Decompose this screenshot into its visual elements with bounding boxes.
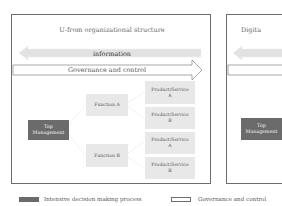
- legend-label-decision: Intensive decision making process: [44, 196, 142, 202]
- product-service-a-box: Product/Service A: [145, 81, 195, 104]
- legend-swatch-outline: [171, 197, 191, 202]
- governance-bar: [228, 65, 282, 75]
- governance-arrow-label: Governance and control: [12, 66, 202, 74]
- u-form-structure-panel: U-from organizational structure informat…: [11, 14, 211, 184]
- top-management-box: Top Management: [28, 120, 69, 140]
- function-b-box: Function B: [86, 144, 128, 167]
- information-arrow-label: information: [12, 50, 212, 58]
- top-management-box: Top Management: [241, 118, 282, 140]
- connector-lines: [227, 15, 282, 185]
- function-a-box: Function A: [86, 94, 128, 116]
- product-service-b-box: Product/Service B: [145, 107, 195, 129]
- information-arrow: [233, 46, 282, 60]
- legend-label-governance: Governance and control: [198, 196, 266, 202]
- product-service-b-box: Product/Service B: [145, 157, 195, 179]
- legend-swatch-filled: [19, 197, 39, 202]
- product-service-a-box: Product/Service A: [145, 132, 195, 154]
- digital-structure-panel: Digita Top Management: [226, 14, 282, 184]
